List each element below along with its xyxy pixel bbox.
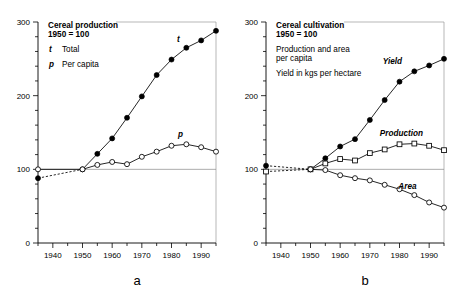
data-point [353, 158, 358, 163]
data-point [169, 57, 174, 62]
legend-note-line1: Production and area [276, 45, 350, 54]
data-point [199, 145, 204, 150]
y-axis-tick-label: 100 [17, 165, 31, 174]
data-point [184, 45, 189, 50]
data-point [353, 137, 358, 142]
series-label-yield: Yield [383, 57, 403, 66]
data-point [382, 182, 387, 187]
data-point [80, 167, 85, 172]
legend-title-line2: 1950 = 100 [276, 30, 318, 39]
data-point [442, 148, 447, 153]
data-point [323, 168, 328, 173]
series-label-production: Production [380, 129, 423, 138]
x-axis-tick-label: 1990 [192, 251, 210, 260]
data-point [427, 143, 432, 148]
data-point [214, 149, 219, 154]
data-point [442, 56, 447, 61]
series-line [311, 169, 445, 207]
data-point [36, 167, 41, 172]
data-point [139, 154, 144, 159]
chart-panel-a: 0100200300194019501960197019801990Cereal… [0, 0, 227, 304]
series-line [311, 144, 445, 170]
data-point [382, 98, 387, 103]
data-point [412, 69, 417, 74]
legend-label-t: Total [62, 45, 79, 54]
series-label-area: Area [397, 182, 417, 191]
series-dashed-segment [266, 166, 311, 170]
x-axis-tick-label: 1980 [163, 251, 181, 260]
data-point [427, 63, 432, 68]
data-point [338, 144, 343, 149]
data-point [367, 117, 372, 122]
x-axis-tick-label: 1950 [74, 251, 92, 260]
data-point [95, 151, 100, 156]
x-axis-tick-label: 1980 [391, 251, 409, 260]
data-point [95, 162, 100, 167]
y-axis-tick-label: 200 [245, 92, 259, 101]
x-axis-tick-label: 1950 [302, 251, 320, 260]
y-axis-tick-label: 100 [245, 165, 259, 174]
legend-key-p: p [48, 60, 54, 69]
data-point [169, 143, 174, 148]
axes: 0100200300194019501960197019801990 [17, 18, 216, 260]
data-point [154, 73, 159, 78]
data-point [308, 167, 313, 172]
data-point [139, 94, 144, 99]
data-point [36, 176, 41, 181]
x-axis-tick-label: 1960 [103, 251, 121, 260]
series-annotations: tp [177, 35, 183, 140]
series-dashed-segment [38, 169, 83, 178]
data-point [367, 178, 372, 183]
data-point [323, 156, 328, 161]
panel-letter-a: a [133, 273, 141, 288]
data-point [382, 147, 387, 152]
y-axis-tick-label: 0 [26, 239, 31, 248]
series-p [36, 142, 219, 172]
legend-title-line2: 1950 = 100 [48, 30, 90, 39]
legend-note-line2: per capita [276, 54, 312, 63]
legend-title-line1: Cereal cultivation [276, 21, 344, 30]
y-axis-tick-label: 0 [254, 239, 259, 248]
x-axis-tick-label: 1970 [361, 251, 379, 260]
legend-key-t: t [49, 45, 52, 54]
data-point [110, 159, 115, 164]
panel-letter-b: b [361, 273, 368, 288]
data-point [412, 193, 417, 198]
x-axis-tick-label: 1970 [133, 251, 151, 260]
legend-panel-a: Cereal production1950 = 100tTotalpPer ca… [48, 21, 118, 69]
legend-note-line3: Yield in kgs per hectare [276, 69, 362, 78]
data-point [199, 38, 204, 43]
chart-panel-b: 0100200300194019501960197019801990Cereal… [228, 0, 455, 304]
data-point [338, 173, 343, 178]
data-point [367, 151, 372, 156]
data-point [264, 163, 269, 168]
x-axis-tick-label: 1940 [44, 251, 62, 260]
data-point [125, 162, 130, 167]
data-point [397, 79, 402, 84]
panel-a-plot: 0100200300194019501960197019801990Cereal… [0, 0, 227, 304]
y-axis-tick-label: 300 [17, 18, 31, 27]
data-point [397, 142, 402, 147]
x-axis-tick-label: 1990 [420, 251, 438, 260]
legend-label-p: Per capita [62, 60, 99, 69]
legend-title-line1: Cereal production [48, 21, 118, 30]
series-line [83, 31, 217, 169]
series-annotations: YieldProductionArea [380, 57, 423, 191]
x-axis-tick-label: 1940 [272, 251, 290, 260]
data-point [264, 169, 269, 174]
data-point [154, 149, 159, 154]
data-point [353, 176, 358, 181]
figure-container: 0100200300194019501960197019801990Cereal… [0, 0, 455, 304]
data-point [323, 161, 328, 166]
data-point [412, 141, 417, 146]
axes: 0100200300194019501960197019801990 [245, 18, 444, 260]
data-point [184, 142, 189, 147]
data-point [214, 28, 219, 33]
data-point [427, 200, 432, 205]
y-axis-tick-label: 300 [245, 18, 259, 27]
y-axis-tick-label: 200 [17, 92, 31, 101]
data-point [338, 157, 343, 162]
series-area [308, 167, 447, 210]
legend-panel-b: Cereal cultivation1950 = 100Production a… [276, 21, 362, 78]
data-point [442, 205, 447, 210]
